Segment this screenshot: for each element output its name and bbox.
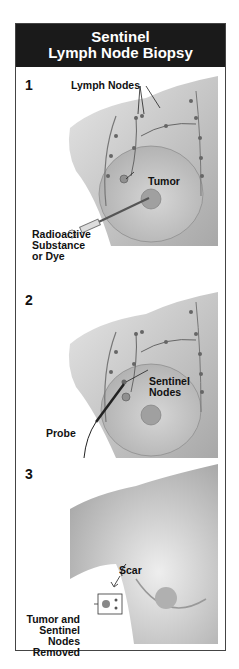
step-2-number: 2: [25, 292, 33, 308]
label-probe: Probe: [46, 428, 76, 439]
torso-probe-illustration: [56, 292, 218, 458]
specimen-box-icon: [94, 594, 122, 614]
arrow-icon: [111, 576, 120, 587]
title-line-1: Sentinel: [16, 29, 225, 45]
label-lymph-nodes: Lymph Nodes: [71, 80, 140, 91]
title-banner: Sentinel Lymph Node Biopsy: [16, 24, 225, 67]
step-1-number: 1: [25, 77, 33, 93]
label-sentinel-2: Nodes: [149, 387, 181, 398]
torso-lymph-illustration: [56, 76, 218, 246]
step-3-illustration: [56, 464, 218, 644]
label-removed-4: Removed: [20, 647, 80, 658]
title-line-2: Lymph Node Biopsy: [16, 45, 225, 61]
figure-frame: Sentinel Lymph Node Biopsy 1: [15, 23, 226, 651]
label-injection-3: or Dye: [32, 251, 65, 262]
step-2-illustration: [56, 292, 218, 458]
step-1-illustration: [56, 76, 218, 246]
step-3-number: 3: [25, 466, 33, 482]
label-tumor: Tumor: [148, 176, 180, 187]
torso-scar-illustration: [56, 464, 218, 644]
label-scar: Scar: [119, 565, 142, 576]
